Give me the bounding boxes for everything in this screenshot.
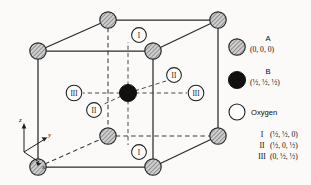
legend-site-row-III: III (0, ½, ½) <box>258 152 298 161</box>
atom-A <box>145 43 161 59</box>
oxygen-label: II <box>92 107 97 115</box>
legend-site-row-I: I (½, ½, 0) <box>261 130 299 139</box>
oxygen-label: III <box>70 90 78 98</box>
legend-symbol-B: B <box>265 67 270 76</box>
legend: A (0, 0, 0) B (½, ½, ½) Oxygen I (½, ½, … <box>228 34 298 161</box>
legend-coords-A: (0, 0, 0) <box>250 45 275 54</box>
legend-entry-oxygen: Oxygen <box>229 104 277 120</box>
legend-site-row-II: II (½, 0, ½) <box>259 141 298 150</box>
oxygen-marker-I-top: I <box>132 28 147 43</box>
unit-cell-diagram: I I II II III III <box>0 0 311 185</box>
legend-entry-B: B (½, ½, ½) <box>228 67 280 89</box>
legend-oxygen-site-list: I (½, ½, 0) II (½, 0, ½) III (0, ½, ½) <box>258 130 298 161</box>
crystal-structure-figure: I I II II III III <box>0 0 311 185</box>
legend-site-coords: (½, ½, 0) <box>270 130 298 139</box>
legend-symbol-A: A <box>265 34 271 43</box>
oxygen-label: III <box>192 90 200 98</box>
legend-site-roman: II <box>259 141 265 150</box>
oxygen-marker-III-left: III <box>66 85 82 101</box>
atom-A <box>210 128 226 144</box>
z-axis-arrowhead <box>22 123 27 129</box>
oxygen-marker-II-left: II <box>87 103 102 118</box>
legend-coords-B: (½, ½, ½) <box>250 78 280 87</box>
atom-A <box>30 43 46 59</box>
oxygen-marker-III-right: III <box>188 85 204 101</box>
atom-A <box>100 128 116 144</box>
legend-site-coords: (0, ½, ½) <box>270 152 298 161</box>
y-axis-line <box>24 139 45 152</box>
legend-site-roman: I <box>261 130 264 139</box>
atom-A <box>210 12 226 28</box>
oxygen-marker-I-bottom: I <box>132 145 147 160</box>
legend-entry-A: A (0, 0, 0) <box>229 34 275 55</box>
y-axis-label: y <box>47 131 52 139</box>
legend-open-circle-icon <box>229 104 245 120</box>
oxygen-marker-II-right: II <box>167 68 182 83</box>
legend-symbol-oxygen: Oxygen <box>251 108 277 117</box>
atom-A <box>145 159 161 175</box>
legend-site-coords: (½, 0, ½) <box>270 141 298 150</box>
atom-B <box>119 84 136 101</box>
oxygen-label: II <box>172 72 177 80</box>
legend-hatched-circle-icon <box>229 39 245 55</box>
legend-site-roman: III <box>258 152 266 161</box>
legend-filled-circle-icon <box>228 71 245 88</box>
x-axis-line <box>24 152 39 162</box>
atom-A <box>100 12 116 28</box>
z-axis-label: z <box>18 116 22 124</box>
